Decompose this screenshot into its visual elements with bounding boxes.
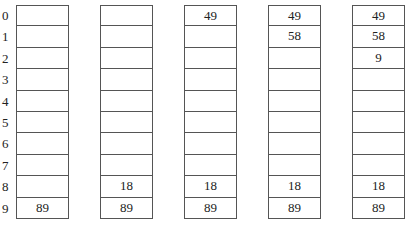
table-cell bbox=[268, 112, 321, 133]
table-cell bbox=[184, 48, 237, 69]
hash-table-step-4: 49 58 18 89 bbox=[268, 5, 321, 219]
table-cell: 18 bbox=[184, 176, 237, 197]
table-cell bbox=[100, 26, 153, 47]
table-cell bbox=[16, 155, 69, 176]
table-cell: 58 bbox=[268, 26, 321, 47]
index-label: 2 bbox=[2, 48, 14, 69]
table-cell: 49 bbox=[268, 5, 321, 26]
table-cell: 89 bbox=[268, 198, 321, 219]
table-cell bbox=[16, 112, 69, 133]
table-cell bbox=[352, 69, 405, 90]
table-cell bbox=[184, 91, 237, 112]
table-cell: 89 bbox=[352, 198, 405, 219]
table-cell bbox=[16, 91, 69, 112]
table-cell bbox=[352, 133, 405, 154]
table-cell bbox=[184, 26, 237, 47]
table-cell bbox=[100, 48, 153, 69]
table-cell bbox=[268, 48, 321, 69]
table-cell bbox=[100, 5, 153, 26]
index-label: 5 bbox=[2, 112, 14, 133]
table-cell bbox=[16, 133, 69, 154]
table-cell bbox=[16, 176, 69, 197]
table-cell bbox=[16, 26, 69, 47]
index-label: 0 bbox=[2, 5, 14, 26]
table-cell bbox=[352, 91, 405, 112]
hash-table-step-2: 18 89 bbox=[100, 5, 153, 219]
table-cell bbox=[16, 5, 69, 26]
index-label: 7 bbox=[2, 155, 14, 176]
table-cell: 89 bbox=[184, 198, 237, 219]
table-cell: 18 bbox=[100, 176, 153, 197]
index-label: 3 bbox=[2, 69, 14, 90]
table-cell bbox=[184, 112, 237, 133]
table-cell: 89 bbox=[16, 198, 69, 219]
table-cell bbox=[100, 69, 153, 90]
index-label: 9 bbox=[2, 198, 14, 219]
table-cell bbox=[352, 155, 405, 176]
table-cell bbox=[268, 91, 321, 112]
table-cell: 9 bbox=[352, 48, 405, 69]
table-cell bbox=[100, 155, 153, 176]
table-cell bbox=[100, 112, 153, 133]
table-cell bbox=[352, 112, 405, 133]
table-cell bbox=[184, 155, 237, 176]
table-cell bbox=[268, 155, 321, 176]
index-label: 4 bbox=[2, 91, 14, 112]
table-cell: 49 bbox=[352, 5, 405, 26]
table-cell bbox=[16, 69, 69, 90]
table-cell: 18 bbox=[268, 176, 321, 197]
table-cell bbox=[100, 133, 153, 154]
hash-table-step-5: 49 58 9 18 89 bbox=[352, 5, 405, 219]
table-cell bbox=[268, 133, 321, 154]
table-cell: 58 bbox=[352, 26, 405, 47]
index-label: 1 bbox=[2, 26, 14, 47]
hash-table-step-3: 49 18 89 bbox=[184, 5, 237, 219]
table-cell: 89 bbox=[100, 198, 153, 219]
table-cell bbox=[16, 48, 69, 69]
hash-table-step-1: 89 bbox=[16, 5, 69, 219]
index-label: 8 bbox=[2, 176, 14, 197]
table-cell bbox=[184, 133, 237, 154]
table-cell bbox=[268, 69, 321, 90]
table-cell bbox=[100, 91, 153, 112]
index-label: 6 bbox=[2, 133, 14, 154]
table-cell: 49 bbox=[184, 5, 237, 26]
table-cell bbox=[184, 69, 237, 90]
table-cell: 18 bbox=[352, 176, 405, 197]
